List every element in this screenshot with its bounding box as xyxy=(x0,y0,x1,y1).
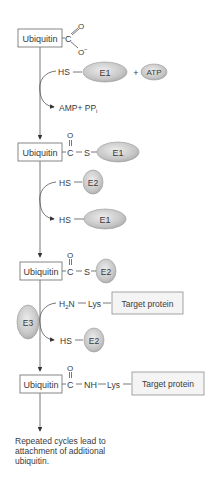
ubiquitin-e1-thioester: Ubiquitin C O S E1 xyxy=(18,131,139,162)
amp-ppi-label: AMP+ PPi xyxy=(59,103,97,114)
svg-text:HS: HS xyxy=(59,178,71,188)
svg-text:Lys: Lys xyxy=(107,380,120,390)
svg-text:Repeated cycles lead to: Repeated cycles lead to xyxy=(15,436,106,446)
ubiquitination-diagram: Ubiquitin C O O − HS E1 + ATP AMP+ PPi U… xyxy=(0,0,217,486)
svg-text:C: C xyxy=(65,34,72,44)
svg-text:C: C xyxy=(67,148,74,158)
svg-text:NH: NH xyxy=(84,380,97,390)
amine-label: H2N xyxy=(59,299,75,310)
e3-ligation: E3 H2N Lys Target protein HS E2 xyxy=(17,292,183,352)
svg-text:E2: E2 xyxy=(88,178,99,188)
svg-text:Ubiquitin: Ubiquitin xyxy=(23,380,58,390)
svg-text:Target protein: Target protein xyxy=(122,299,174,309)
ubiquitin-label: Ubiquitin xyxy=(22,34,57,44)
svg-text:E3: E3 xyxy=(23,318,34,328)
svg-text:Lys: Lys xyxy=(88,299,101,309)
ubiquitin-e2-thioester: Ubiquitin C O S E2 xyxy=(20,251,116,283)
svg-text:O: O xyxy=(67,131,73,140)
svg-text:Target protein: Target protein xyxy=(142,379,194,389)
svg-text:C: C xyxy=(67,267,74,277)
svg-text:E2: E2 xyxy=(89,336,100,346)
svg-text:Ubiquitin: Ubiquitin xyxy=(23,267,58,277)
svg-text:O: O xyxy=(67,364,73,373)
ubiquitinated-target: Ubiquitin C O NH Lys Target protein xyxy=(20,364,204,395)
svg-text:E2: E2 xyxy=(101,267,112,277)
svg-text:HS: HS xyxy=(60,336,72,346)
svg-text:HS: HS xyxy=(59,215,71,225)
ubiquitin-carboxylate: Ubiquitin C O O − xyxy=(18,22,88,57)
svg-text:O: O xyxy=(78,22,84,31)
svg-text:O: O xyxy=(67,251,73,260)
svg-text:Ubiquitin: Ubiquitin xyxy=(22,148,57,158)
e1-activation: HS E1 + ATP AMP+ PPi xyxy=(40,62,167,114)
svg-text:attachment of additional: attachment of additional xyxy=(15,446,105,456)
e2-transfer: HS E2 HS E1 xyxy=(40,170,126,229)
svg-text:E1: E1 xyxy=(99,68,110,78)
svg-text:E1: E1 xyxy=(99,215,110,225)
svg-text:S: S xyxy=(84,267,90,277)
svg-text:HS: HS xyxy=(58,67,70,77)
svg-text:E1: E1 xyxy=(112,148,123,158)
footnote: Repeated cycles lead to attachment of ad… xyxy=(15,436,106,466)
svg-text:C: C xyxy=(67,380,74,390)
svg-text:ATP: ATP xyxy=(147,68,162,77)
svg-text:S: S xyxy=(84,148,90,158)
svg-text:−: − xyxy=(84,46,88,52)
svg-text:ubiquitin.: ubiquitin. xyxy=(15,456,49,466)
svg-text:+: + xyxy=(133,68,138,78)
